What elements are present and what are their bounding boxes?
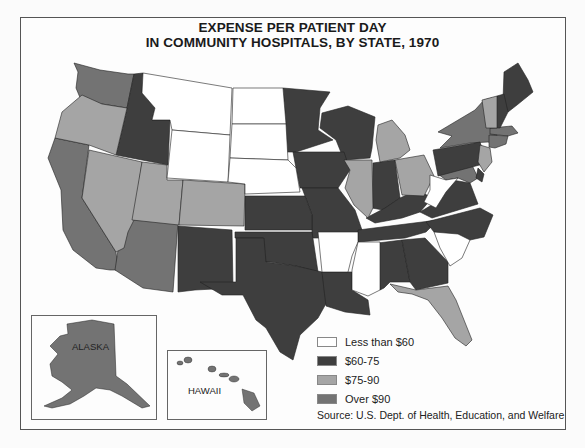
legend-swatch	[317, 375, 337, 385]
legend-item-75-90: $75-90	[317, 370, 414, 389]
state-ar	[318, 232, 358, 272]
legend-item-60-75: $60-75	[317, 351, 414, 370]
legend-label: Less than $60	[345, 336, 414, 348]
state-ia	[293, 152, 350, 188]
state-wy	[167, 130, 230, 182]
legend-swatch	[317, 337, 337, 347]
state-nd	[232, 88, 286, 124]
alaska-label: ALASKA	[72, 341, 109, 352]
state-ms	[352, 242, 380, 296]
hawaii-label: HAWAII	[188, 385, 221, 396]
alaska-inset: ALASKA	[31, 315, 157, 420]
legend-swatch	[317, 356, 337, 366]
legend-label: $75-90	[345, 374, 379, 386]
state-mi	[376, 120, 410, 162]
state-oh	[395, 155, 434, 196]
state-ks	[245, 196, 312, 230]
state-sd	[230, 124, 288, 160]
legend-label: $60-75	[345, 355, 379, 367]
state-ct-ri	[489, 135, 508, 148]
legend-item-less-than-60: Less than $60	[317, 332, 414, 351]
state-co	[179, 180, 245, 226]
legend-item-over-90: Over $90	[317, 389, 414, 408]
legend: Less than $60 $60-75 $75-90 Over $90	[317, 332, 414, 408]
legend-swatch	[317, 394, 337, 404]
source-note: Source: U.S. Dept. of Health, Education,…	[317, 409, 564, 421]
state-nj	[478, 145, 492, 172]
hawaii-inset: HAWAII	[167, 350, 267, 420]
state-me	[503, 63, 533, 112]
alaska-shape	[32, 316, 156, 419]
legend-label: Over $90	[345, 393, 390, 405]
